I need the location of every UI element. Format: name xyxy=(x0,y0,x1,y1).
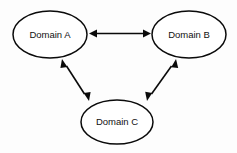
arrowhead-icon-toward-domain-c-left xyxy=(84,92,91,101)
edge-domain-a-domain-b xyxy=(89,30,151,38)
node-label-domain-b: Domain B xyxy=(168,29,210,40)
node-label-domain-a: Domain A xyxy=(29,29,71,40)
edge-domain-b-domain-c xyxy=(145,59,178,101)
node-label-domain-c: Domain C xyxy=(96,116,138,127)
node-domain-c[interactable]: Domain C xyxy=(81,100,153,144)
arrowhead-icon-toward-domain-a-lower xyxy=(60,59,67,68)
arrowhead-icon-toward-domain-b xyxy=(143,30,151,38)
diagram-canvas: Domain A Domain B Domain C xyxy=(0,0,237,153)
domain-relationship-diagram: Domain A Domain B Domain C xyxy=(0,0,237,153)
node-domain-b[interactable]: Domain B xyxy=(152,11,226,58)
edge-line-a-c xyxy=(67,66,85,94)
arrowhead-icon-toward-domain-b-lower xyxy=(171,59,178,68)
arrowhead-icon-toward-domain-c-right xyxy=(145,92,152,101)
arrowhead-icon-toward-domain-a xyxy=(89,30,97,38)
edge-line-b-c xyxy=(152,66,172,94)
node-domain-a[interactable]: Domain A xyxy=(13,11,87,58)
edge-domain-a-domain-c xyxy=(60,59,90,101)
